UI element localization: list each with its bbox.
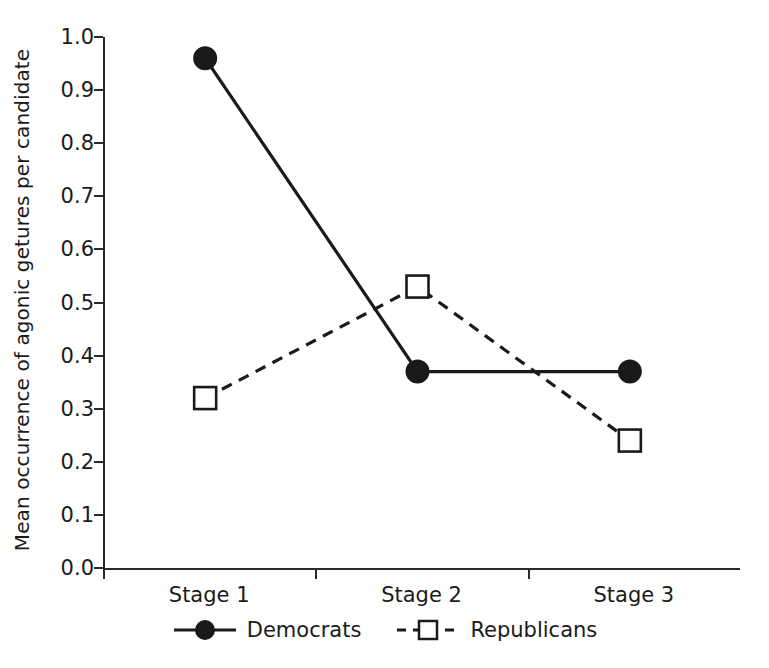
data-point-filled-circle-icon — [194, 47, 216, 69]
y-axis-title: Mean occurrence of agonic getures per ca… — [0, 0, 44, 600]
y-axis-tick-label: 0.9 — [42, 80, 94, 101]
line-chart-figure: Mean occurrence of agonic getures per ca… — [0, 0, 769, 668]
y-axis-tick-label: 0.2 — [42, 451, 94, 472]
x-axis-tick-mark — [315, 568, 317, 579]
y-axis-tick-mark — [94, 89, 103, 91]
legend-item-republicans[interactable]: Republicans — [395, 618, 597, 642]
y-axis-tick-mark — [94, 248, 103, 250]
y-axis-tick-mark — [94, 142, 103, 144]
chart-legend: Democrats Republicans — [0, 618, 769, 642]
x-axis-tick-mark — [103, 568, 105, 579]
y-axis-tick-mark — [94, 36, 103, 38]
y-axis-title-text: Mean occurrence of agonic getures per ca… — [10, 49, 34, 551]
y-axis-tick-mark — [94, 302, 103, 304]
y-axis-tick-mark — [94, 355, 103, 357]
y-axis-tick-label: 0.5 — [42, 292, 94, 313]
y-axis-tick-label: 0.0 — [42, 558, 94, 579]
series-line — [205, 58, 630, 371]
x-axis-tick-label: Stage 3 — [544, 583, 724, 607]
data-point-open-square-icon — [407, 276, 429, 298]
y-axis-tick-mark — [94, 408, 103, 410]
y-axis-tick-label: 0.3 — [42, 398, 94, 419]
x-axis-tick-label: Stage 1 — [119, 583, 299, 607]
data-point-open-square-icon — [194, 387, 216, 409]
legend-item-democrats[interactable]: Democrats — [172, 618, 362, 642]
legend-label-republicans: Republicans — [470, 620, 597, 641]
y-axis-tick-label: 0.7 — [42, 186, 94, 207]
y-axis-tick-label: 1.0 — [42, 27, 94, 48]
y-axis-line — [103, 37, 105, 569]
legend-marker-filled-circle-icon — [172, 618, 238, 642]
series-republicans — [194, 276, 641, 452]
legend-label-democrats: Democrats — [247, 620, 362, 641]
y-axis-tick-mark — [94, 461, 103, 463]
series-democrats — [194, 47, 641, 382]
y-axis-tick-mark — [94, 567, 103, 569]
data-point-open-square-icon — [619, 430, 641, 452]
y-axis-tick-label: 0.4 — [42, 345, 94, 366]
y-axis-tick-label: 0.8 — [42, 133, 94, 154]
x-axis-line — [103, 568, 740, 570]
x-axis-tick-label: Stage 2 — [332, 583, 512, 607]
y-axis-tick-labels: 0.00.10.20.30.40.50.60.70.80.91.0 — [40, 0, 94, 668]
data-point-filled-circle-icon — [619, 361, 641, 383]
data-point-filled-circle-icon — [407, 361, 429, 383]
legend-marker-open-square-icon — [395, 618, 461, 642]
y-axis-tick-label: 0.1 — [42, 504, 94, 525]
series-line — [205, 287, 630, 441]
y-axis-tick-mark — [94, 514, 103, 516]
y-axis-tick-label: 0.6 — [42, 239, 94, 260]
x-axis-tick-mark — [528, 568, 530, 579]
y-axis-tick-mark — [94, 195, 103, 197]
